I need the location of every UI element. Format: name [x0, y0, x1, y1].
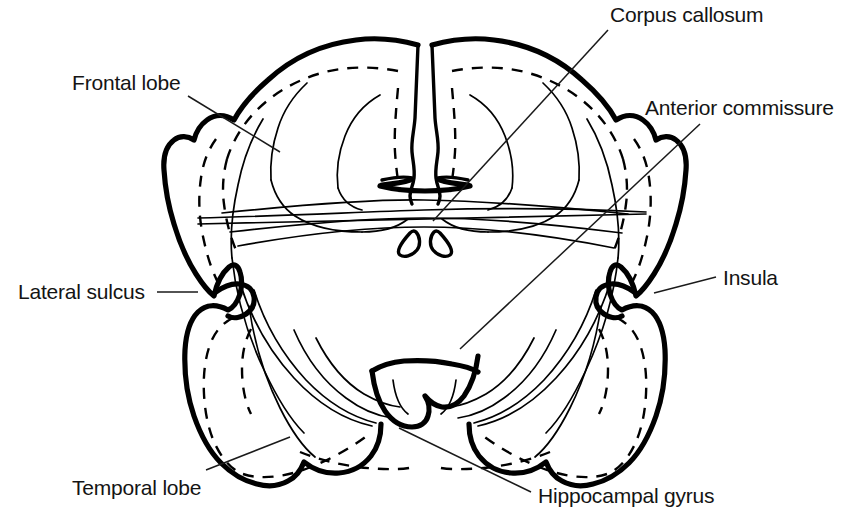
leader-temporal-lobe: [206, 437, 290, 470]
internal-gyri-contours: [198, 83, 646, 457]
interhemispheric-fissure: [410, 45, 440, 204]
label-temporal-lobe: Temporal lobe: [72, 476, 201, 499]
brain-coronal-section-figure: Corpus callosum Anterior commissure Fron…: [0, 0, 853, 511]
leader-insula: [654, 277, 716, 293]
leader-corpus-callosum: [433, 30, 608, 221]
label-corpus-callosum: Corpus callosum: [610, 3, 763, 26]
leader-anterior-commissure: [460, 124, 700, 349]
label-anterior-commissure: Anterior commissure: [645, 96, 834, 119]
hippocampal-gyrus-structure: [240, 283, 610, 427]
annotation-labels: Corpus callosum Anterior commissure Fron…: [18, 3, 834, 507]
leader-hippocampal-gyrus: [399, 428, 531, 492]
corpus-callosum-structure: [380, 177, 470, 191]
grey-matter-dashed-boundary: [199, 68, 650, 478]
label-frontal-lobe: Frontal lobe: [72, 71, 181, 94]
lateral-sulcus-notches: [216, 284, 634, 318]
anterior-commissure-nuclei: [398, 231, 451, 256]
label-insula: Insula: [723, 266, 778, 289]
label-lateral-sulcus: Lateral sulcus: [18, 280, 145, 303]
leader-lines: [157, 30, 716, 492]
diagram-canvas: Corpus callosum Anterior commissure Fron…: [0, 0, 853, 511]
label-hippocampal-gyrus: Hippocampal gyrus: [538, 484, 714, 507]
